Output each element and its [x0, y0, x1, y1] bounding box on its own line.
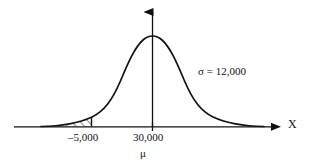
- tick-label-30000: 30,000: [133, 132, 163, 143]
- normal-distribution-figure: X σ = 12,000 –5,000 30,000 μ: [0, 0, 311, 167]
- tick-label-minus-5000: –5,000: [68, 132, 98, 143]
- sigma-annotation: σ = 12,000: [198, 66, 246, 77]
- x-axis-label: X: [288, 118, 297, 130]
- mu-label: μ: [140, 148, 146, 159]
